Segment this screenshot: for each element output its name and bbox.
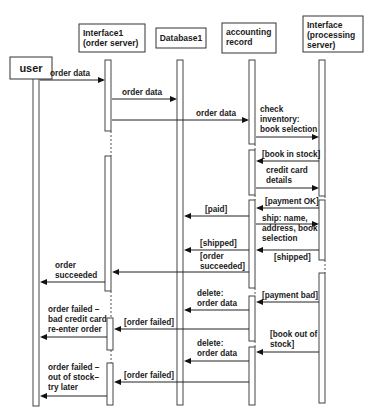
message-label: [payment bad] (262, 291, 318, 300)
message-m7: [payment OK] (256, 197, 319, 211)
arrowhead-icon (40, 393, 47, 399)
message-m10: [shipped] (184, 239, 249, 253)
participant-label: Database1 (160, 33, 203, 43)
arrowhead-icon (242, 117, 249, 123)
message-label: order data (196, 109, 236, 118)
participant-user: user (10, 57, 52, 79)
arrowhead-icon (256, 205, 263, 211)
participant-accounting: accountingrecord (222, 23, 276, 53)
message-m1: order data (40, 69, 105, 83)
message-label: [shipped] (274, 253, 311, 262)
activation-bar-interface1 (105, 156, 111, 291)
message-m18: [book out ofstock] (256, 330, 319, 355)
activation-bar-accounting (249, 200, 255, 288)
arrowhead-icon (184, 307, 191, 313)
message-label: bad credit card (48, 315, 107, 324)
activation-bar-processing (319, 200, 325, 260)
message-m9: ship: name,address, bookselection (256, 214, 319, 243)
participant-label: user (19, 62, 43, 74)
message-label: order failed – (48, 363, 100, 372)
arrowhead-icon (114, 326, 121, 332)
participant-processing: Interface(processingserver) (303, 16, 363, 52)
message-m6: credit carddetails (256, 166, 319, 191)
activation-bar-accounting (249, 60, 255, 144)
message-label: succeeded (55, 271, 97, 280)
activation-bar-interface1 (107, 318, 113, 350)
message-label: order (55, 261, 77, 270)
message-m5: [book in stock] (256, 150, 320, 164)
sequence-diagram: userInterface1(order server)Database1acc… (0, 0, 368, 409)
arrowhead-icon (184, 358, 191, 364)
message-m2: order data (112, 88, 177, 102)
message-label: succeeded] (200, 262, 245, 271)
message-label: details (266, 176, 292, 185)
activation-bar-processing (319, 60, 325, 196)
activation-bar-accounting (249, 347, 255, 405)
message-label: ship: name, (262, 214, 308, 223)
participant-database1: Database1 (156, 28, 206, 48)
message-label: stock] (270, 340, 294, 349)
participant-label: Interface1 (83, 28, 123, 38)
message-label: order data (50, 69, 90, 78)
message-m13: ordersucceeded (40, 261, 105, 285)
message-label: out of stock– (48, 373, 99, 382)
message-label: try later (48, 383, 79, 392)
activation-bar-accounting (249, 296, 255, 341)
message-label: [payment OK] (265, 197, 319, 206)
message-label: selection (262, 234, 298, 243)
message-label: [order failed] (124, 371, 174, 380)
activation-bar-database1 (177, 60, 183, 405)
activation-bar-accounting (249, 150, 255, 195)
arrowhead-icon (312, 134, 319, 140)
message-label: delete: (197, 339, 223, 348)
arrowhead-icon (184, 213, 191, 219)
message-m17: order failed –bad credit cardre-enter or… (40, 305, 107, 340)
arrowhead-icon (40, 334, 47, 340)
message-label: book selection (260, 125, 317, 134)
arrowhead-icon (312, 185, 319, 191)
message-label: inventory: (260, 115, 300, 124)
message-m4: checkinventory:book selection (256, 105, 319, 140)
message-label: [order failed] (124, 318, 174, 327)
message-label: [paid] (205, 205, 228, 214)
participant-label: record (226, 37, 252, 47)
message-m19: delete:order data (184, 339, 249, 364)
participant-label: (order server) (83, 38, 138, 48)
participant-label: server) (307, 40, 336, 50)
activation-bar-user (33, 60, 39, 406)
message-label: order data (197, 349, 237, 358)
message-label: [order (200, 252, 224, 261)
message-label: re-enter order (48, 325, 103, 334)
participant-interface1: Interface1(order server) (79, 24, 145, 52)
activation-bar-interface1 (107, 363, 113, 405)
activation-bar-interface1 (105, 60, 111, 131)
message-label: [book in stock] (262, 150, 320, 159)
message-label: credit card (266, 166, 308, 175)
arrowhead-icon (170, 96, 177, 102)
arrowhead-icon (98, 77, 105, 83)
message-label: order failed – (48, 305, 100, 314)
arrowhead-icon (40, 279, 47, 285)
arrowhead-icon (256, 349, 263, 355)
message-m15: delete:order data (184, 289, 249, 313)
message-label: order data (122, 88, 162, 97)
arrowhead-icon (256, 247, 263, 253)
message-m14: [payment bad] (256, 291, 319, 305)
message-label: [book out of (270, 330, 318, 339)
participant-label: Interface (307, 20, 343, 30)
arrowhead-icon (114, 379, 121, 385)
activation-bar-processing (319, 273, 325, 403)
participant-label: (processing (307, 30, 355, 40)
message-label: delete: (197, 289, 223, 298)
arrowhead-icon (184, 247, 191, 253)
participant-label: accounting (226, 27, 271, 37)
message-m11: [shipped] (256, 247, 319, 262)
message-label: check (260, 105, 284, 114)
arrowhead-icon (112, 269, 119, 275)
message-label: order data (197, 299, 237, 308)
message-label: address, book (262, 224, 318, 233)
message-label: [shipped] (200, 239, 237, 248)
message-m8: [paid] (184, 205, 249, 219)
message-m21: order failed –out of stock–try later (40, 363, 107, 399)
